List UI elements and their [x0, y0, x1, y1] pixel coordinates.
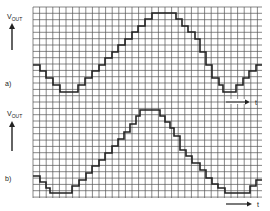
panel-a-label: a): [5, 80, 11, 88]
stepped-waveform-diagram: VOUT a) t VOUT b) t: [0, 0, 270, 211]
waveform-b: [33, 110, 262, 193]
panel-b-t-label: t: [257, 201, 259, 208]
svg-text:VOUT: VOUT: [7, 13, 22, 22]
panel-b-y-axis-label: VOUT: [7, 110, 22, 119]
panel-a-up-arrow-icon: [9, 23, 15, 50]
svg-text:VOUT: VOUT: [7, 110, 22, 119]
panel-a-t-label: t: [255, 99, 257, 106]
panel-a-right-arrow-icon: [226, 99, 250, 105]
panel-b-right-arrow-icon: [226, 202, 252, 207]
waveform-a: [33, 13, 262, 92]
panel-b-label: b): [5, 175, 11, 183]
panel-b-up-arrow-icon: [9, 121, 15, 151]
panel-a-y-axis-label: VOUT: [7, 13, 22, 22]
